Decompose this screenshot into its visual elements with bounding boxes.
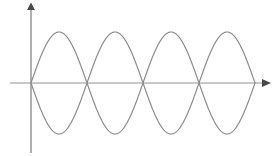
arrowhead-right-icon: [262, 79, 271, 87]
figure-canvas: [0, 0, 279, 156]
wave-plot: [0, 0, 279, 156]
arrowhead-up-icon: [27, 3, 35, 11]
